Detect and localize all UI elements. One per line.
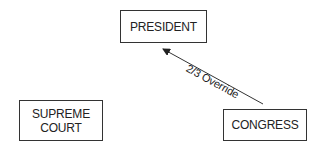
override-arrow (0, 0, 326, 151)
